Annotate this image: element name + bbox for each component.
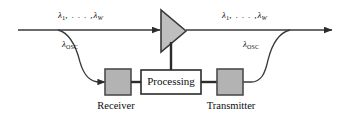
optical-amplifier-triangle	[161, 10, 186, 52]
receiver-caption: Receiver	[88, 101, 144, 112]
transmitter-block	[217, 69, 243, 95]
lambda-first-index: 1	[62, 14, 65, 21]
input-wavelength-label: λ1, . . . ,λW	[58, 11, 103, 20]
lambda-first-index: 1	[226, 14, 229, 21]
osc-drop-path	[58, 30, 105, 82]
receiver-block	[105, 69, 131, 95]
lambda-last-index: W	[261, 14, 266, 21]
lambda-ellipsis: , . . . ,	[229, 10, 257, 20]
processing-block-label: Processing	[141, 76, 201, 87]
transmitter-caption: Transmitter	[195, 101, 267, 112]
osc-subscript: OSC	[247, 44, 259, 50]
lambda-ellipsis: , . . . ,	[65, 10, 93, 20]
lambda-last-index: W	[97, 14, 102, 21]
output-wavelength-label: λ1, . . . ,λW	[222, 11, 267, 20]
diagram-canvas	[0, 0, 343, 129]
osc-add-path	[243, 30, 290, 82]
osc-add-label: λOSC	[243, 40, 259, 49]
optical-node-diagram: λ1, . . . ,λW λ1, . . . ,λW λOSC λOSC Pr…	[0, 0, 343, 129]
osc-subscript: OSC	[66, 44, 78, 50]
osc-drop-label: λOSC	[62, 40, 78, 49]
